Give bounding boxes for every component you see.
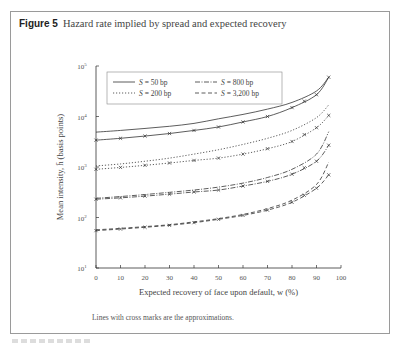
series-line: [96, 145, 329, 199]
x-tick-label: 30: [166, 274, 174, 282]
series-line: [96, 115, 329, 169]
series-line: [96, 132, 329, 199]
cross-mark: [315, 126, 318, 129]
legend-label: S = 50 bp: [139, 78, 168, 87]
x-tick-label: 80: [289, 274, 297, 282]
y-tick-label: 105: [77, 62, 87, 71]
x-tick-label: 40: [191, 274, 199, 282]
cross-mark: [327, 114, 330, 117]
cross-mark: [290, 201, 293, 204]
x-tick-label: 90: [313, 274, 321, 282]
cross-mark: [303, 194, 306, 197]
cross-mark: [241, 153, 244, 156]
cross-mark: [290, 140, 293, 143]
cross-mark: [290, 106, 293, 109]
legend-label: S = 800 bp: [221, 78, 254, 87]
figure-note: Lines with cross marks are the approxima…: [92, 313, 234, 322]
x-tick-label: 70: [264, 274, 272, 282]
x-tick-label: 0: [94, 274, 98, 282]
x-tick-label: 10: [117, 274, 125, 282]
x-axis-label: Expected recovery of face upon default, …: [139, 287, 298, 297]
y-tick-label: 103: [77, 163, 87, 172]
legend-label: S = 200 bp: [139, 89, 172, 98]
cross-mark: [315, 160, 318, 163]
cross-mark: [327, 76, 330, 79]
y-tick-label: 104: [77, 113, 87, 122]
legend-label: S = 3,200 bp: [221, 89, 259, 98]
cut-off-text: [12, 339, 92, 343]
series-line: [96, 175, 329, 231]
x-tick-label: 20: [142, 274, 150, 282]
cross-mark: [119, 166, 122, 169]
cross-mark: [315, 187, 318, 190]
series-line: [96, 105, 329, 166]
legend: [107, 72, 282, 104]
cross-mark: [315, 93, 318, 96]
x-tick-label: 100: [336, 274, 347, 282]
cross-mark: [327, 144, 330, 147]
y-tick-label: 102: [77, 214, 87, 223]
series-line: [96, 162, 329, 230]
cross-mark: [327, 173, 330, 176]
x-tick-label: 50: [215, 274, 223, 282]
x-tick-label: 60: [240, 274, 248, 282]
cross-mark: [290, 173, 293, 176]
chart: 0102030405060708090100101102103104105Exp…: [0, 0, 400, 346]
y-axis-label: Mean intensity, h̄ (basis points): [55, 114, 65, 221]
y-tick-label: 101: [77, 264, 87, 273]
